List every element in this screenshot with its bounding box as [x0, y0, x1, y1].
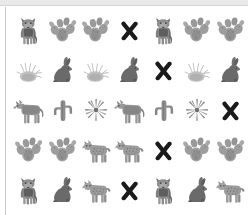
- grid-cell: [113, 10, 147, 50]
- saguaro-icon: [49, 96, 77, 124]
- wolf-icon: [13, 15, 44, 46]
- grid-cell: [12, 10, 46, 50]
- wolf-icon: [13, 175, 44, 206]
- prickly-pear-icon: [48, 135, 78, 165]
- prickly-pear-icon: [182, 15, 212, 45]
- grid-cell: [46, 130, 80, 170]
- jackrabbit-icon: [48, 56, 77, 85]
- jackrabbit-icon: [115, 56, 144, 85]
- saguaro-icon: [150, 96, 178, 124]
- grid-cell: [214, 90, 248, 130]
- jackrabbit-icon: [48, 176, 77, 205]
- grid-cell: [180, 170, 214, 210]
- grid-cell: [180, 10, 214, 50]
- grid-cell: [214, 50, 248, 90]
- grid-cell: [214, 10, 248, 50]
- grid-cell: [147, 170, 181, 210]
- bobcat-icon: [81, 135, 112, 166]
- icon-row: [12, 90, 248, 130]
- icon-row: [12, 130, 248, 170]
- x-mark-icon: [218, 98, 243, 123]
- grid-cell: [147, 130, 181, 170]
- icon-row: [12, 50, 248, 90]
- coyote-icon: [12, 94, 45, 127]
- grid-cell: [46, 90, 80, 130]
- grid-cell: [46, 10, 80, 50]
- grid-cell: [46, 170, 80, 210]
- grid-cell: [12, 130, 46, 170]
- grass-icon: [14, 55, 44, 85]
- screenshot-canvas: [0, 0, 248, 215]
- bobcat-icon: [215, 175, 246, 206]
- icon-grid: [12, 10, 248, 215]
- grid-cell: [113, 90, 147, 130]
- grid-cell: [12, 50, 46, 90]
- grid-cell: [113, 50, 147, 90]
- jackrabbit-icon: [216, 56, 245, 85]
- grid-cell: [180, 50, 214, 90]
- x-mark-icon: [117, 178, 142, 203]
- grass-icon: [182, 55, 212, 85]
- wolf-icon: [148, 175, 179, 206]
- grid-cell: [12, 90, 46, 130]
- grid-cell: [79, 10, 113, 50]
- grid-cell: [147, 50, 181, 90]
- grid-cell: [79, 90, 113, 130]
- jackrabbit-icon: [183, 176, 212, 205]
- grid-cell: [214, 170, 248, 210]
- grid-cell: [12, 170, 46, 210]
- prickly-pear-icon: [48, 15, 78, 45]
- x-mark-icon: [151, 138, 176, 163]
- icon-row: [12, 10, 248, 50]
- grid-cell: [79, 170, 113, 210]
- bobcat-icon: [81, 175, 112, 206]
- prickly-pear-icon: [182, 135, 212, 165]
- x-mark-icon: [151, 58, 176, 83]
- bobcat-icon: [114, 135, 145, 166]
- left-vertical-rule: [5, 7, 6, 215]
- grid-cell: [214, 130, 248, 170]
- prickly-pear-icon: [81, 15, 111, 45]
- x-mark-icon: [117, 18, 142, 43]
- agave-icon: [83, 97, 109, 123]
- agave-icon: [184, 97, 210, 123]
- grid-cell: [147, 90, 181, 130]
- grid-cell: [46, 50, 80, 90]
- grid-cell: [113, 130, 147, 170]
- grid-cell: [180, 90, 214, 130]
- wolf-icon: [148, 15, 179, 46]
- grid-cell: [79, 50, 113, 90]
- coyote-icon: [113, 94, 146, 127]
- grid-cell: [147, 10, 181, 50]
- top-band-edge: [0, 5, 248, 6]
- prickly-pear-icon: [216, 135, 246, 165]
- icon-row: [12, 170, 248, 210]
- prickly-pear-icon: [216, 15, 246, 45]
- grid-cell: [180, 130, 214, 170]
- prickly-pear-icon: [14, 135, 44, 165]
- grass-icon: [81, 55, 111, 85]
- grid-cell: [79, 130, 113, 170]
- grid-cell: [113, 170, 147, 210]
